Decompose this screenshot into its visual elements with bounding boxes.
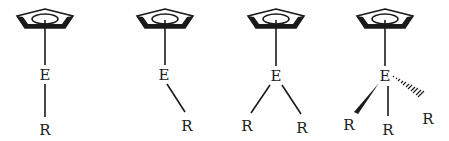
e-r-bond-right (282, 85, 301, 114)
substituent-label: R (39, 121, 51, 139)
center-atom-label: E (159, 66, 170, 84)
e-r-bond (167, 84, 185, 112)
substituent-label-left: R (241, 117, 253, 135)
center-atom-label: E (271, 67, 282, 85)
wedge-bond-icon (354, 83, 379, 114)
e-r-bond-left (251, 85, 270, 113)
substituent-label-left: R (343, 116, 355, 134)
substituent-label-center: R (382, 121, 394, 139)
center-atom-label: E (380, 67, 391, 85)
substituent-label: R (181, 117, 193, 135)
diagram-canvas: E R E R E R R E (0, 0, 449, 141)
molecule-cp-e-r2: E R R (241, 9, 308, 137)
molecule-cp-e-r-bent: E R (137, 9, 193, 135)
molecule-cp-e-r3: E R R R (343, 9, 434, 139)
substituent-label-right: R (296, 119, 308, 137)
substituent-label-right: R (422, 110, 434, 128)
center-atom-label: E (40, 66, 51, 84)
hashed-bond-icon (393, 76, 424, 97)
molecule-cp-e-r-linear: E R (17, 9, 73, 139)
